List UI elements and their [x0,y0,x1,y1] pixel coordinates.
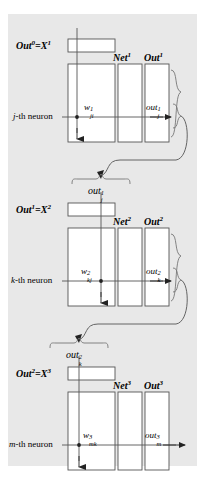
column-header-out-1: Out1 [144,52,163,63]
diagram-canvas: Out0=X1 Net1 Out1 j-th neuron w1ji out1j… [0,0,205,481]
column-header-net-3: Net3 [113,380,131,391]
weight-symbol-2: w2kj [81,267,87,276]
column-header-out-2: Out2 [144,216,163,227]
column-header-net-2: Net2 [113,216,131,227]
neuron-label-3: m-th neuron [9,440,53,449]
neuron-label-2: k-th neuron [11,276,52,285]
output-symbol-3: out3m [145,431,157,440]
output-symbol-2: out2k [146,267,158,276]
weight-symbol-1: w1ji [84,103,90,112]
column-header-net-1: Net1 [113,52,131,63]
input-row-label-1: Out0=X1 [16,40,51,51]
weight-symbol-3: w3mk [83,431,89,440]
column-header-out-3: Out3 [144,380,163,391]
neuron-label-1: j-th neuron [13,112,53,121]
input-row-label-3: Out2=X3 [16,368,51,379]
output-symbol-1: out1j [146,103,158,112]
figure-background-plate [8,14,197,466]
feedback-label-1: out1j [88,186,101,196]
input-row-label-2: Out1=X2 [16,204,51,215]
feedback-label-2: out2k [66,350,79,360]
